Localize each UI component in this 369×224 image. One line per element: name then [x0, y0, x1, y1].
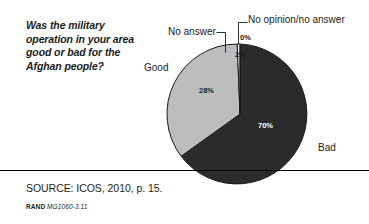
pie-label-no-answer: No answer [168, 26, 216, 37]
survey-question-text: Was the military operation in your area … [26, 19, 151, 73]
rand-brand-text: RAND [26, 203, 45, 210]
pie-value-good: 28% [199, 86, 214, 95]
rand-figure-id: RAND MG1060-3.11 [26, 203, 87, 210]
pie-chart-figure: Was the military operation in your area … [0, 0, 369, 224]
pie-value-no-answer: 2% [235, 50, 246, 59]
footer-divider [0, 170, 369, 171]
rand-figure-code: MG1060-3.11 [47, 203, 87, 210]
pie-value-bad: 70% [258, 121, 273, 130]
pie-value-no-opinion: 0% [240, 33, 251, 42]
pie-label-no-opinion: No opinion/no answer [248, 14, 345, 25]
source-note: SOURCE: ICOS, 2010, p. 15. [26, 182, 162, 194]
pie-label-bad: Bad [318, 142, 336, 153]
pie-label-good: Good [144, 62, 168, 73]
chart-area: No answer No opinion/no answer Good Bad … [155, 8, 369, 190]
